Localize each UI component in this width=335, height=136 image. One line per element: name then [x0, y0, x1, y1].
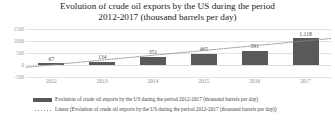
y-axis-tick-label: 1500 — [0, 26, 24, 32]
legend-item-trendline: Linear (Evolution of crude oil exports b… — [0, 106, 335, 113]
trendline-path — [26, 38, 331, 67]
chart-title: Evolution of crude oil exports by the US… — [0, 1, 335, 23]
legend-label-trendline: Linear (Evolution of crude oil exports b… — [55, 106, 277, 113]
x-axis-tick-label: 2014 — [128, 78, 179, 84]
chart-title-line-2: 2012-2017 (thousand barrels per day) — [0, 12, 335, 23]
x-axis-tick-label: 2012 — [26, 78, 77, 84]
bar-swatch-icon — [33, 98, 52, 102]
y-axis-tick-label: 500 — [0, 50, 24, 56]
x-axis-tick-label: 2017 — [280, 78, 331, 84]
y-axis-tick-label: -500 — [0, 74, 24, 80]
x-axis-tick-label: 2015 — [179, 78, 230, 84]
x-axis: 201220132014201520162017 — [26, 78, 331, 87]
dotted-line-swatch-icon — [33, 108, 52, 112]
x-axis-tick-label: 2013 — [77, 78, 128, 84]
plot-area: 671343514655911.118 — [26, 29, 331, 77]
chart-title-line-1: Evolution of crude oil exports by the US… — [0, 1, 335, 12]
y-axis: 150010005000-500 — [0, 29, 24, 77]
legend-label-bar-series: Evolution of crude oil exports by the US… — [55, 96, 258, 103]
chart-container: Evolution of crude oil exports by the US… — [0, 0, 335, 136]
x-axis-tick-label: 2016 — [229, 78, 280, 84]
y-axis-tick-label: 0 — [0, 62, 24, 68]
linear-trendline — [26, 29, 331, 77]
chart-legend: Evolution of crude oil exports by the US… — [0, 96, 335, 115]
y-axis-tick-label: 1000 — [0, 38, 24, 44]
legend-item-bar-series: Evolution of crude oil exports by the US… — [0, 96, 335, 103]
